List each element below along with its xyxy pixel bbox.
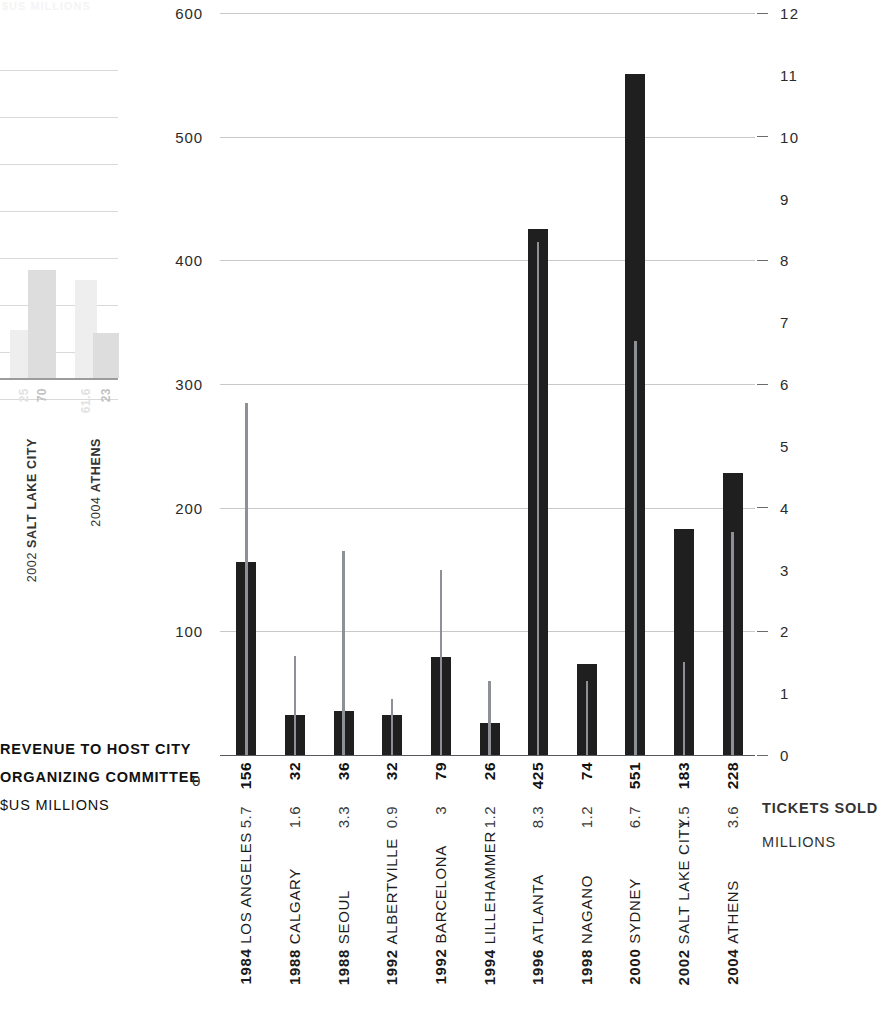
gridline-300 xyxy=(220,384,755,385)
tickets-sold-line xyxy=(586,681,589,755)
tickets-sold-line xyxy=(245,403,248,756)
left-tick-label-100: 100 xyxy=(143,623,203,640)
ghost-gridline xyxy=(0,211,118,212)
category-year: 1996 xyxy=(529,944,546,985)
x-axis-category-label: 2000 SYDNEY xyxy=(626,878,643,985)
right-tick-mark-8 xyxy=(757,260,768,261)
value-label-tickets-sold: 0.9 xyxy=(383,806,400,828)
x-axis-category-label: 1996 ATLANTA xyxy=(529,874,546,985)
left-axis-title-line-3: $US MILLIONS xyxy=(0,797,215,813)
x-axis-category-label: 1984 LOS ANGELES xyxy=(237,832,254,985)
main-plot-area xyxy=(220,13,755,755)
category-city: LILLEHAMMER xyxy=(481,831,498,944)
category-year: 1988 xyxy=(335,944,352,985)
right-tick-label-9: 9 xyxy=(780,190,790,207)
left-tick-label-300: 300 xyxy=(143,376,203,393)
gridline-400 xyxy=(220,260,755,261)
right-axis-title-line-1: TICKETS SOLD xyxy=(762,800,878,816)
left-tick-label-500: 500 xyxy=(143,128,203,145)
category-city: BARCELONA xyxy=(432,845,449,944)
value-label-tickets-sold: 8.3 xyxy=(529,806,546,828)
right-tick-label-2: 2 xyxy=(780,623,790,640)
right-tick-mark-4 xyxy=(757,507,768,508)
ghost-category-year: 2004 xyxy=(89,492,103,526)
tickets-sold-line xyxy=(391,699,394,755)
value-label-tickets-sold: 5.7 xyxy=(237,806,254,828)
ghost-gridline xyxy=(0,305,118,306)
right-tick-label-7: 7 xyxy=(780,314,790,331)
ghost-gridline xyxy=(0,258,118,259)
value-label-revenue: 26 xyxy=(481,762,499,780)
left-axis-zero-label: 0 xyxy=(192,772,201,789)
value-label-tickets-sold: 1.2 xyxy=(578,806,595,828)
category-year: 1992 xyxy=(432,944,449,985)
value-label-tickets-sold: 1.6 xyxy=(286,806,303,828)
tickets-sold-line xyxy=(342,551,345,755)
x-axis-category-label: 1988 CALGARY xyxy=(286,868,303,985)
tickets-sold-line xyxy=(537,242,540,755)
ghost-category-label: 2002 SALT LAKE CITY xyxy=(25,438,39,582)
category-year: 1984 xyxy=(237,944,254,985)
x-axis-category-label: 1994 LILLEHAMMER xyxy=(481,831,498,985)
category-city: CALGARY xyxy=(286,868,303,944)
value-label-revenue: 156 xyxy=(237,762,255,789)
left-axis-title: REVENUE TO HOST CITY ORGANIZING COMMITTE… xyxy=(0,741,215,813)
value-label-revenue: 32 xyxy=(383,762,401,780)
ghost-value-label: 23 xyxy=(99,388,113,402)
right-tick-label-1: 1 xyxy=(780,685,790,702)
gridline-500 xyxy=(220,137,755,138)
x-axis-category-label: 2002 SALT LAKE CITY xyxy=(675,818,692,985)
x-axis-category-label: 1988 SEOUL xyxy=(335,890,352,985)
right-axis-title-line-2: MILLIONS xyxy=(762,834,878,850)
ghost-gridline xyxy=(0,117,118,118)
ghost-gridline xyxy=(0,70,118,71)
category-city: SEOUL xyxy=(335,890,352,944)
x-axis-category-label: 2004 ATHENS xyxy=(724,880,741,985)
tickets-sold-line xyxy=(634,341,637,755)
left-axis-title-line-2: ORGANIZING COMMITTEE xyxy=(0,769,215,785)
ghost-category-city: SALT LAKE CITY xyxy=(25,438,39,548)
value-label-tickets-sold: 1.2 xyxy=(481,806,498,828)
category-city: SALT LAKE CITY xyxy=(675,818,692,944)
tickets-sold-line xyxy=(731,532,734,755)
right-tick-label-10: 10 xyxy=(780,128,799,145)
value-label-revenue: 32 xyxy=(286,762,304,780)
right-tick-label-4: 4 xyxy=(780,499,790,516)
category-year: 1998 xyxy=(578,944,595,985)
right-tick-label-3: 3 xyxy=(780,561,790,578)
ghost-category-label: 2004 ATHENS xyxy=(89,438,103,527)
value-label-revenue: 228 xyxy=(724,762,742,789)
category-city: NAGANO xyxy=(578,875,595,944)
right-tick-mark-12 xyxy=(757,13,768,14)
ghost-value-label: 25 xyxy=(17,388,31,402)
category-year: 1992 xyxy=(383,944,400,985)
ghost-bar xyxy=(93,333,119,378)
category-city: ATLANTA xyxy=(529,874,546,944)
tickets-sold-line xyxy=(294,656,297,755)
x-axis-category-label: 1992 BARCELONA xyxy=(432,845,449,985)
ghost-value-label: 70 xyxy=(35,388,49,402)
value-label-tickets-sold: 3 xyxy=(432,806,449,815)
value-label-revenue: 551 xyxy=(626,762,644,789)
value-label-revenue: 425 xyxy=(529,762,547,789)
value-label-tickets-sold: 6.7 xyxy=(626,806,643,828)
right-tick-label-12: 12 xyxy=(780,5,799,22)
value-label-revenue: 79 xyxy=(432,762,450,780)
ghost-value-label: 61.6 xyxy=(79,388,93,413)
value-label-revenue: 183 xyxy=(675,762,693,789)
right-tick-mark-6 xyxy=(757,384,768,385)
value-label-revenue: 74 xyxy=(578,762,596,780)
tickets-sold-line xyxy=(683,662,686,755)
gridline-600 xyxy=(220,13,755,14)
category-year: 2002 xyxy=(675,944,692,985)
right-tick-mark-10 xyxy=(757,136,768,137)
right-tick-mark-0 xyxy=(757,755,768,756)
value-label-tickets-sold: 3.3 xyxy=(335,806,352,828)
category-year: 2000 xyxy=(626,944,643,985)
ghost-baseline xyxy=(0,378,118,380)
category-city: SYDNEY xyxy=(626,878,643,944)
right-axis-title: TICKETS SOLD MILLIONS xyxy=(762,800,878,850)
x-axis-category-label: 1998 NAGANO xyxy=(578,875,595,985)
ghost-gridline xyxy=(0,164,118,165)
